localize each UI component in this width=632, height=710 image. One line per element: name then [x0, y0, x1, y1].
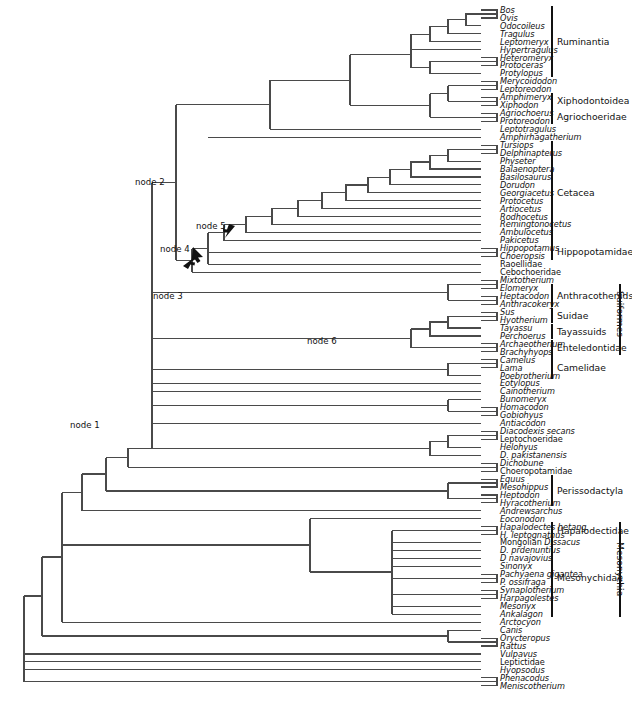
clade-bracket — [551, 340, 553, 356]
clade-label: Xiphodontoidea — [557, 96, 629, 105]
clade-bracket — [551, 141, 553, 244]
clade-bracket — [551, 355, 553, 379]
clade-label: Camelidae — [557, 363, 606, 372]
node-label: node 2 — [135, 178, 165, 187]
clade-bracket — [551, 109, 553, 125]
clade-bracket — [551, 522, 553, 538]
clade-bracket — [551, 308, 553, 324]
clade-bracket — [551, 324, 553, 340]
node-label: node 3 — [153, 292, 183, 301]
node-label: node 5 — [196, 222, 226, 231]
clade-label: Suiformes — [616, 291, 625, 337]
node-label: node 1 — [70, 421, 100, 430]
clade-label: Mesonychidae — [557, 573, 623, 582]
node-label: node 6 — [307, 337, 337, 346]
clade-bracket — [551, 6, 553, 77]
clade-bracket — [551, 93, 553, 109]
node-label: node 4 — [160, 245, 190, 254]
clade-bracket — [551, 475, 553, 506]
clade-label: Cetacea — [557, 188, 595, 197]
clade-label: Enteledontidae — [557, 343, 627, 352]
clade-label: Perissodactyla — [557, 486, 623, 495]
clade-label: Agriochoeridae — [557, 112, 627, 121]
clade-label: Mesonychia — [616, 542, 625, 596]
cladogram-figure: BosOvisOdocoileusTragulusLeptomeryxHyper… — [0, 0, 632, 710]
taxon-label: Meniscotherium — [500, 682, 565, 690]
clade-bracket — [551, 244, 553, 260]
clade-label: Hippopotamidae — [557, 247, 632, 256]
clade-label: Suidae — [557, 311, 588, 320]
clade-bracket — [551, 284, 553, 308]
clade-bracket — [551, 538, 553, 617]
clade-label: Ruminantia — [557, 37, 609, 46]
clade-label: Tayassuids — [557, 327, 606, 336]
